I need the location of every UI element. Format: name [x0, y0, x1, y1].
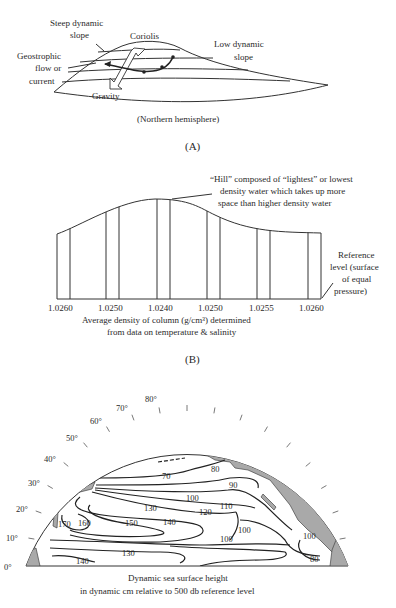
contour-label-100d: 100: [303, 531, 316, 541]
geostrophic-pointer: [68, 63, 96, 68]
geostrophic-label-1: Geostrophic: [17, 51, 61, 61]
lat-label-40: 40°: [44, 454, 56, 464]
caption-b: (B): [185, 353, 200, 366]
caption-a: (A): [185, 140, 201, 153]
panel-b-density-columns: “Hill” composed of “lightest” or lowest …: [48, 174, 379, 366]
arc-tick: [321, 486, 326, 489]
panel-a-dome-diagram: Steep dynamic slope Coriolis Low dynamic…: [17, 18, 328, 153]
contour-label-100c: 100: [220, 534, 233, 544]
arc-tick: [64, 463, 69, 467]
contour-label-160: 160: [78, 518, 91, 528]
arc-tick: [28, 538, 34, 539]
reference-pointer: [322, 283, 333, 298]
low-slope-label-1: Low dynamic: [214, 39, 264, 49]
contour-label-90: 90: [229, 480, 238, 490]
steep-slope-pointer: [96, 44, 104, 51]
dome-contour-2: [80, 58, 213, 62]
contour-label-140b: 140: [76, 556, 89, 566]
map-caption-1: Dynamic sea surface height: [128, 573, 228, 583]
contour-label-80b: 80: [310, 554, 319, 564]
kamchatka-landmass: [132, 430, 145, 457]
flow-dot: [160, 65, 164, 69]
arc-tick: [214, 407, 215, 413]
south-america-landmass: [330, 520, 360, 566]
arc-tick: [107, 427, 110, 432]
density-tick-3: 1.0240: [148, 303, 173, 313]
arc-tick: [36, 511, 42, 513]
contour-label-130b: 130: [122, 548, 135, 558]
density-tick-2: 1.0250: [98, 303, 123, 313]
arc-tick: [265, 427, 268, 432]
steep-slope-label-2: slope: [70, 30, 89, 40]
contour-label-170: 170: [58, 519, 71, 529]
panel-c-pacific-map: 0° 10° 20° 30° 40° 50° 60° 70° 80° 70 80…: [4, 394, 360, 596]
figure-canvas: Steep dynamic slope Coriolis Low dynamic…: [0, 0, 396, 608]
coriolis-label: Coriolis: [130, 31, 160, 41]
arc-tick: [306, 463, 311, 467]
reference-label-3: of equal: [342, 274, 372, 284]
lat-label-20: 20°: [16, 504, 28, 514]
hill-pointer: [172, 194, 212, 199]
density-tick-6: 1.0260: [299, 303, 324, 313]
lat-label-70: 70°: [116, 403, 128, 413]
lat-label-10: 10°: [6, 533, 18, 543]
arc-tick: [159, 407, 160, 413]
arc-tick: [48, 486, 53, 489]
reference-label-2: level (surface: [330, 262, 379, 272]
geostrophic-label-3: current: [29, 76, 55, 86]
arc-tick: [84, 443, 88, 448]
steep-slope-label-1: Steep dynamic: [50, 18, 103, 28]
density-tick-1: 1.0260: [48, 303, 73, 313]
flow-dot: [142, 70, 146, 74]
contour-label-150: 150: [125, 518, 138, 528]
hill-annotation-3: space than higher density water: [218, 198, 331, 208]
arc-tick: [240, 415, 242, 421]
contour-label-100b: 100: [238, 525, 251, 535]
map-caption-2: in dynamic cm relative to 500 db referen…: [80, 586, 255, 596]
column-lines: [57, 199, 321, 299]
lat-label-50: 50°: [66, 433, 78, 443]
geostrophic-label-2: flow or: [35, 63, 61, 73]
contour-label-110: 110: [220, 501, 232, 511]
lat-label-0: 0°: [4, 562, 12, 572]
lat-label-80: 80°: [145, 394, 157, 404]
hill-annotation-1: “Hill” composed of “lightest” or lowest: [210, 174, 353, 184]
contour-label-80: 80: [211, 464, 220, 474]
arc-tick: [287, 443, 291, 448]
reference-label-4: pressure): [334, 286, 367, 296]
arc-tick: [340, 538, 346, 539]
dome-contour-4: [62, 78, 290, 82]
contour-label-70: 70: [162, 471, 171, 481]
arc-tick: [333, 511, 339, 513]
lat-label-30: 30°: [28, 478, 40, 488]
contour-label-100: 100: [186, 493, 199, 503]
flow-dot: [171, 55, 175, 59]
density-tick-5: 1.0255: [249, 303, 274, 313]
gravity-label: Gravity: [92, 91, 120, 101]
hill-annotation-2: density water which takes up more: [220, 186, 345, 196]
density-tick-4: 1.0250: [198, 303, 223, 313]
hemisphere-label: (Northern hemisphere): [137, 114, 219, 124]
lat-label-60: 60°: [90, 416, 102, 426]
low-slope-label-2: slope: [234, 52, 253, 62]
axis-label-1: Average density of column (g/cm³) determ…: [82, 315, 251, 325]
contour-label-130: 130: [144, 503, 157, 513]
axis-label-2: from data on temperature & salinity: [107, 327, 237, 337]
flow-arrowhead-icon: [104, 61, 111, 67]
contour-label-140: 140: [163, 517, 176, 527]
arc-tick: [132, 415, 134, 421]
reference-label-1: Reference: [338, 250, 374, 260]
contour-label-120: 120: [199, 507, 212, 517]
